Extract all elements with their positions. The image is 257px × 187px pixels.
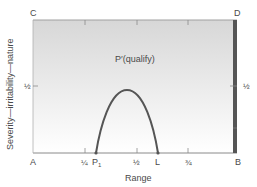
right-bar — [233, 20, 237, 153]
point-l — [156, 151, 159, 154]
y-tick-half-left: ½ — [24, 82, 31, 91]
plot-area — [33, 20, 237, 153]
y-tick-half-right: ½ — [243, 82, 250, 91]
x-point-p1: P1 — [92, 157, 102, 168]
x-axis-label: Range — [125, 173, 152, 183]
corner-a-label: A — [30, 157, 36, 167]
x-tick-three-quarter: ¾ — [185, 158, 192, 167]
range-severity-diagram: C D A B P′(qualify) ¼ P1 ½ L ¾ Range ½ ½… — [0, 0, 257, 187]
point-p1 — [94, 151, 97, 154]
corner-b-label: B — [235, 157, 241, 167]
corner-d-label: D — [234, 8, 241, 18]
x-tick-quarter: ¼ — [81, 158, 88, 167]
corner-c-label: C — [30, 8, 37, 18]
region-label: P′(qualify) — [115, 54, 155, 64]
x-tick-half: ½ — [133, 158, 140, 167]
y-axis-label: Severity—irritability—nature — [5, 38, 15, 150]
x-point-l: L — [155, 157, 160, 167]
